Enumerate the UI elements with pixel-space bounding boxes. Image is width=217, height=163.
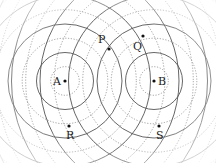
wave-crest-b [69, 0, 217, 163]
wave-pattern: ABPQRS [0, 0, 216, 163]
point-q-dot [141, 34, 144, 37]
point-q-label: Q [133, 40, 142, 53]
source-a-label: A [52, 75, 62, 88]
source-b-dot [152, 79, 155, 82]
wave-trough-b [54, 0, 216, 163]
source-a-dot [63, 79, 66, 82]
wave-trough-b [83, 10, 216, 153]
wave-trough-a [0, 0, 165, 163]
interference-diagram: ABPQRS [0, 0, 216, 163]
point-p-dot [107, 47, 110, 50]
point-s-dot [157, 124, 160, 127]
point-r-label: R [66, 129, 75, 142]
point-s-label: S [156, 129, 164, 142]
point-p-label: P [98, 33, 106, 46]
source-b-label: B [158, 75, 166, 88]
point-r-dot [67, 124, 70, 127]
wave-crest-b [12, 0, 217, 163]
wave-crest-a [0, 0, 208, 163]
